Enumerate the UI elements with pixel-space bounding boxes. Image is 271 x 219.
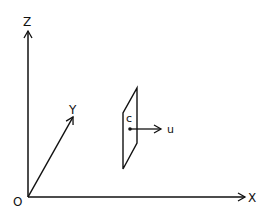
- x-axis-label: X: [248, 191, 256, 205]
- point-c-label: c: [126, 112, 132, 125]
- y-axis: [28, 117, 73, 197]
- vector-u-label: u: [167, 123, 174, 136]
- coordinate-diagram: Z X Y O c u: [0, 0, 271, 219]
- y-axis-label: Y: [68, 103, 77, 117]
- z-axis-label: Z: [23, 15, 31, 29]
- origin-label: O: [13, 195, 22, 209]
